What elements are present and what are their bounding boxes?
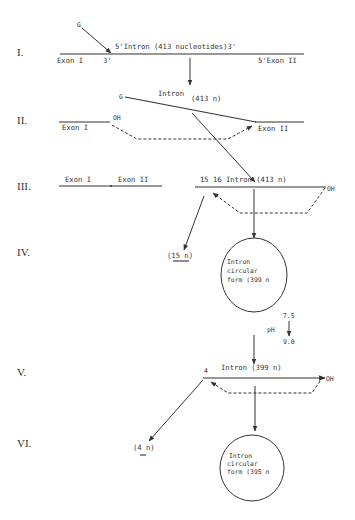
exon2-label: 5'Exon II: [258, 56, 297, 65]
circle-text-line2: circular: [227, 460, 258, 468]
fragment-label: (4 n): [133, 443, 155, 452]
fragment-release-arrow: [149, 380, 203, 441]
recyclization-path: [211, 381, 320, 393]
intron-release-arrow: [192, 113, 255, 182]
position-label: 4: [204, 367, 208, 375]
exon1-label: Exon I: [62, 123, 88, 132]
step-3: Exon I Exon II 15 16 Intron (413 n) OH: [59, 175, 335, 250]
step-numeral-6: VI.: [17, 437, 32, 449]
circular-intron: [221, 238, 287, 312]
circle-text-line3: form (395 n: [227, 468, 269, 476]
ph-from: 7.5: [283, 312, 295, 320]
step-5: Intron (399 n) 4 OH: [149, 363, 334, 441]
exon1-label: Exon I: [65, 175, 91, 184]
step-1: G 5'Intron (413 nucleotides)3' Exon I 3'…: [57, 21, 304, 85]
guanosine-label: G: [119, 93, 123, 101]
exon2-label: Exon II: [118, 175, 148, 184]
intron-size-label: (413 n): [191, 94, 221, 103]
ph-label: pH: [267, 326, 275, 334]
fragment-release-arrow: [184, 196, 204, 250]
splice-junction-dot: [110, 185, 112, 187]
circle-text-line1: Intron: [229, 452, 252, 460]
ligation-path: [112, 125, 252, 139]
guanosine-label: G: [77, 21, 81, 29]
ph-shift: 7.5 pH 9.0: [254, 312, 295, 364]
exon1-3prime-label: 3': [103, 56, 112, 65]
intron-label: Intron (399 n): [221, 363, 282, 372]
step-numeral-2: II.: [17, 114, 27, 126]
exon1-label: Exon I: [57, 56, 83, 65]
step-numeral-3: III.: [17, 180, 31, 192]
cyclization-path: [213, 188, 325, 213]
step-numeral-5: V.: [17, 366, 27, 378]
circle-text-line2: circular: [227, 267, 258, 275]
intron-label: Intron: [158, 89, 184, 98]
oh-label: OH: [113, 114, 121, 122]
oh-label: OH: [326, 375, 334, 383]
splicing-diagram: I. II. III. IV. V. VI. G 5'Intron (413 n…: [0, 0, 355, 520]
step-2: G Intron (413 n) OH Exon I Exon II: [59, 89, 304, 182]
ph-to: 9.0: [283, 338, 295, 346]
step-4: (15 n) Intron circular form (399 n: [167, 238, 287, 312]
step-numeral-1: I.: [17, 46, 24, 58]
intron-label: 15 16 Intron (413 n): [200, 175, 287, 184]
guanosine-attack-arrow: [82, 28, 111, 53]
intron-label: 5'Intron (413 nucleotides)3': [115, 42, 236, 51]
circle-text-line1: Intron: [227, 258, 250, 266]
fragment-label: (15 n): [167, 251, 193, 260]
oh-label: OH: [327, 185, 335, 193]
step-numeral-4: IV.: [17, 246, 30, 258]
step-6: (4 n) Intron circular form (395 n: [133, 435, 284, 501]
exon2-label: Exon II: [258, 124, 288, 133]
circle-text-line3: form (399 n: [227, 276, 269, 284]
